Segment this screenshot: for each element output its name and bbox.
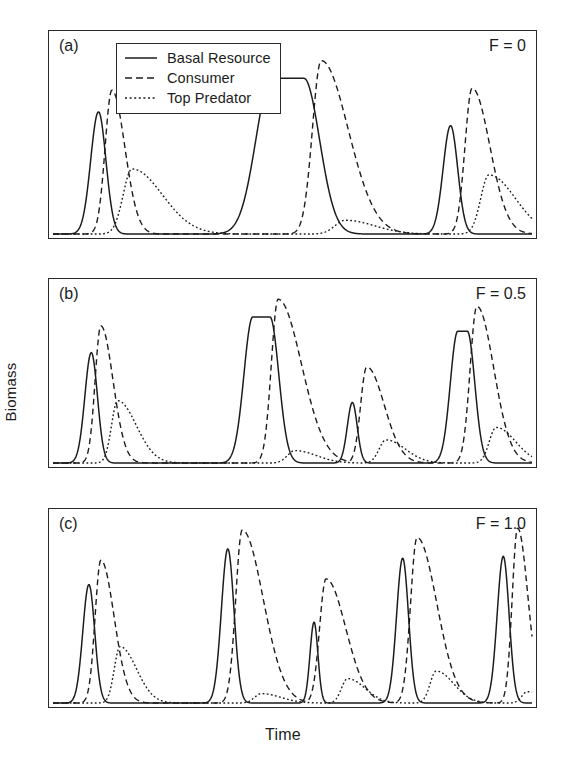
curve-dashed: [53, 528, 532, 703]
panel-c-label: (c): [59, 515, 78, 533]
basal-resource-key: [124, 52, 158, 64]
curve-dashed: [53, 299, 532, 463]
y-axis-label-text: Biomass: [2, 292, 19, 492]
curve-dotted: [53, 401, 532, 463]
consumer-key: [124, 72, 158, 84]
curve-solid: [53, 549, 532, 703]
panel-b-param-label: F = 0.5: [476, 285, 526, 303]
panel-a-param-label: F = 0: [489, 37, 526, 55]
y-axis-label: Biomass: [2, 92, 19, 292]
legend-label: Top Predator: [167, 90, 251, 106]
panel-c: (c) F = 1.0: [48, 508, 537, 708]
panel-a-label: (a): [59, 37, 79, 55]
top-predator-key: [124, 92, 158, 104]
x-axis-label: Time: [0, 726, 566, 744]
panel-c-plot: [49, 509, 536, 707]
panel-b-label: (b): [59, 285, 79, 303]
curve-solid: [53, 317, 532, 463]
legend-item-solid: Basal Resource: [124, 48, 271, 68]
panel-c-param-label: F = 1.0: [476, 515, 526, 533]
legend-item-dotted: Top Predator: [124, 88, 271, 108]
figure-root: Biomass (a) F = 0 (b) F = 0.5 (c) F = 1.…: [0, 0, 566, 779]
panel-b: (b) F = 0.5: [48, 278, 537, 468]
legend: Basal ResourceConsumerTop Predator: [116, 43, 281, 114]
panel-b-plot: [49, 279, 536, 467]
legend-label: Basal Resource: [167, 50, 271, 66]
x-axis-label-text: Time: [265, 726, 301, 743]
legend-item-dashed: Consumer: [124, 68, 271, 88]
legend-label: Consumer: [167, 70, 235, 86]
